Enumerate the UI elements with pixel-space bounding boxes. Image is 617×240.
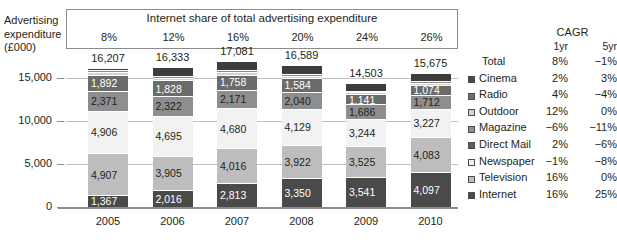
bar-segment-cinema[interactable] [153,67,193,76]
bar-segment-magazine[interactable]: 2,171 [217,90,257,109]
legend-swatch-icon [468,142,475,149]
bar-stack[interactable]: 1,7582,1714,6804,0162,813 [217,61,257,207]
x-axis-label: 2008 [270,215,334,227]
bar-segment-internet[interactable]: 3,350 [282,178,322,207]
bar-segment-internet[interactable]: 2,813 [217,183,257,207]
legend-swatch-icon [468,192,475,199]
bar-segment-direct-mail[interactable]: 1,758 [217,75,257,90]
legend-item-television[interactable]: Television16%0% [464,171,617,188]
bar-segment-value: 2,371 [88,96,117,107]
bar-segment-direct-mail[interactable]: 1,141 [346,94,386,104]
bar-segment-value: 3,525 [346,157,375,168]
bar-stack[interactable]: 1,0741,7123,2274,0834,097 [411,73,451,207]
y-axis-label: 10,000 [0,114,52,126]
x-axis-label: 2010 [399,215,463,227]
bar-segment-cinema[interactable] [346,83,386,91]
cagr-5yr-value: −6% [572,138,617,150]
bar-segment-newspaper[interactable]: 4,680 [217,108,257,148]
cagr-1yr-value: 8% [528,55,568,67]
bar-segment-magazine[interactable]: 1,686 [346,104,386,118]
internet-share-value: 8% [81,31,137,43]
bar-stack[interactable]: 1,1411,6863,2443,5253,541 [346,83,386,207]
legend-label: Direct Mail [479,138,531,150]
legend-item-internet[interactable]: Internet16%25% [464,188,617,205]
bar-segment-value: 2,016 [153,194,182,205]
cagr-5yr-value: −11% [572,121,617,133]
bar-stack[interactable]: 1,8282,3224,6953,9052,016 [153,67,193,207]
bar-segment-cinema[interactable] [282,65,322,74]
legend-item-cinema[interactable]: Cinema2%3% [464,72,617,89]
bar-segment-value: 3,922 [282,157,311,168]
cagr-1yr-value: 4% [528,88,568,100]
bar-segment-newspaper[interactable]: 3,227 [411,109,451,137]
legend-label: Magazine [479,121,527,133]
bar-segment-internet[interactable]: 3,541 [346,177,386,207]
plot-area: 05,00010,00015,0001,8922,3714,9064,9071,… [66,57,458,207]
bar-segment-television[interactable]: 3,922 [282,145,322,179]
x-axis-label: 2005 [76,215,140,227]
bar-total-label: 17,081 [205,45,269,57]
legend-item-direct-mail[interactable]: Direct Mail2%−6% [464,138,617,155]
y-axis-tick [57,121,64,122]
y-axis-tick [57,164,64,165]
bar-segment-television[interactable]: 4,016 [217,148,257,182]
bar-segment-television[interactable]: 4,907 [88,153,128,195]
bar-segment-direct-mail[interactable]: 1,584 [282,78,322,92]
cagr-col-1yr: 1yr [528,40,568,52]
bar-segment-internet[interactable]: 2,016 [153,190,193,207]
bar-segment-internet[interactable]: 4,097 [411,172,451,207]
bar-segment-magazine[interactable]: 2,371 [88,91,128,111]
bar-segment-value: 1,584 [282,80,311,91]
bar-segment-newspaper[interactable]: 4,129 [282,109,322,144]
cagr-5yr-value: 3% [572,72,617,84]
legend-swatch-icon [468,176,475,183]
bar-segment-value: 4,097 [411,185,440,196]
bar-stack[interactable]: 1,8922,3714,9064,9071,367 [88,68,128,207]
bar-segment-newspaper[interactable]: 3,244 [346,119,386,147]
bar-segment-magazine[interactable]: 2,322 [153,96,193,116]
internet-share-value: 20% [275,31,331,43]
internet-share-banner: Internet share of total advertising expe… [66,9,458,49]
bar-segment-magazine[interactable]: 1,712 [411,95,451,110]
bar-segment-direct-mail[interactable]: 1,828 [153,80,193,96]
legend-item-outdoor[interactable]: Outdoor12%0% [464,105,617,122]
bar-stack[interactable]: 1,5842,0404,1293,9223,350 [282,65,322,207]
internet-share-value: 12% [146,31,202,43]
cagr-1yr-value: 2% [528,138,568,150]
bar-segment-magazine[interactable]: 2,040 [282,92,322,109]
x-axis-label: 2007 [205,215,269,227]
bar-segment-value: 3,244 [346,128,375,139]
legend-label: Cinema [479,72,517,84]
bar-segment-direct-mail[interactable]: 1,074 [411,85,451,94]
bar-segment-television[interactable]: 4,083 [411,137,451,172]
bar-segment-cinema[interactable] [217,61,257,70]
legend-item-magazine[interactable]: Magazine−6%−11% [464,121,617,138]
bar-segment-value: 4,906 [88,127,117,138]
cagr-1yr-value: −1% [528,155,568,167]
bar-segment-direct-mail[interactable]: 1,892 [88,75,128,91]
x-axis-label: 2006 [141,215,205,227]
bar-segment-value: 4,907 [88,170,117,181]
legend-item-total[interactable]: Total8%−1% [464,55,617,72]
legend-item-newspaper[interactable]: Newspaper−1%−8% [464,155,617,172]
legend-label: Total [482,55,505,67]
bar-segment-newspaper[interactable]: 4,695 [153,116,193,156]
bar-segment-television[interactable]: 3,905 [153,156,193,189]
cagr-1yr-value: 16% [528,188,568,200]
y-axis-label: 15,000 [0,71,52,83]
legend-swatch-icon [468,93,475,100]
legend-swatch-icon [468,159,475,166]
cagr-subheader: 1yr 5yr [528,40,617,54]
legend-rows: Total8%−1%Cinema2%3%Radio4%−4%Outdoor12%… [464,55,617,204]
legend-item-radio[interactable]: Radio4%−4% [464,88,617,105]
bar-segment-value: 1,758 [217,77,246,88]
internet-share-value: 16% [210,31,266,43]
bar-segment-value: 2,040 [282,96,311,107]
cagr-5yr-value: 0% [572,105,617,117]
bar-segment-newspaper[interactable]: 4,906 [88,111,128,153]
bar-segment-cinema[interactable] [411,73,451,82]
legend-swatch-icon [468,109,475,116]
bar-segment-television[interactable]: 3,525 [346,146,386,176]
bar-segment-value: 4,695 [153,131,182,142]
bar-segment-internet[interactable]: 1,367 [88,195,128,207]
